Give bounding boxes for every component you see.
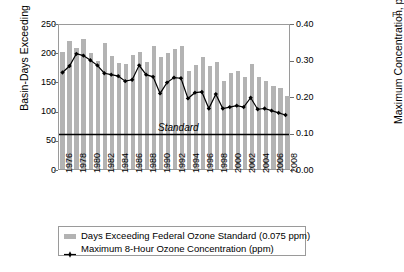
x-tick-label-2004: 2004 xyxy=(262,153,271,173)
x-tick-label-1994: 1994 xyxy=(192,153,201,173)
legend-label-line: Maximum 8-Hour Ozone Concentration (ppm) xyxy=(81,244,274,254)
x-tick-label-2000: 2000 xyxy=(234,153,243,173)
right-edge-cutoff-text: F t a d E xyxy=(392,10,400,20)
x-tick-label-1984: 1984 xyxy=(121,153,130,173)
x-tick-label-1990: 1990 xyxy=(163,153,172,173)
legend-item-line: Maximum 8-Hour Ozone Concentration (ppm) xyxy=(64,243,300,255)
y-right-tickmark xyxy=(290,97,294,98)
x-tick-label-1980: 1980 xyxy=(93,153,102,173)
y-left-tick-label-250: 250 xyxy=(16,20,56,29)
x-tick-label-2008: 2008 xyxy=(290,153,299,173)
x-tick-label-1982: 1982 xyxy=(107,153,116,173)
standard-annotation: Standard xyxy=(158,122,199,133)
y-right-tick-label-0.00: 0.00 xyxy=(296,166,336,175)
y-left-tickmark xyxy=(54,170,58,171)
x-tick-label-2002: 2002 xyxy=(248,153,257,173)
x-tick-label-1976: 1976 xyxy=(65,153,74,173)
y-axis-right-title: Maximum Concentration, ppm xyxy=(392,0,404,134)
y-left-tick-label-50: 50 xyxy=(16,136,56,145)
y-right-tick-label-0.10: 0.10 xyxy=(296,129,336,138)
x-tick-label-1978: 1978 xyxy=(79,153,88,173)
line-marker-icon xyxy=(64,245,76,254)
x-tick-label-1996: 1996 xyxy=(206,153,215,173)
x-tick-label-2006: 2006 xyxy=(276,153,285,173)
y-left-tick-label-0: 0 xyxy=(16,166,56,175)
y-left-tick-label-150: 150 xyxy=(16,78,56,87)
x-tick-label-1992: 1992 xyxy=(178,153,187,173)
legend-item-bars: Days Exceeding Federal Ozone Standard (0… xyxy=(64,230,300,242)
plot-area xyxy=(58,24,290,170)
standard-line-layer xyxy=(59,25,289,169)
y-right-tick-label-0.30: 0.30 xyxy=(296,56,336,65)
y-right-tick-label-0.40: 0.40 xyxy=(296,20,336,29)
bar-swatch-icon xyxy=(64,234,76,239)
y-right-tickmark xyxy=(290,24,294,25)
y-left-tick-label-200: 200 xyxy=(16,49,56,58)
legend-label-bars: Days Exceeding Federal Ozone Standard (0… xyxy=(81,231,310,241)
x-tick-label-1998: 1998 xyxy=(220,153,229,173)
x-tick-label-1988: 1988 xyxy=(149,153,158,173)
x-tick-label-1986: 1986 xyxy=(135,153,144,173)
y-right-tickmark xyxy=(290,134,294,135)
y-right-tick-label-0.20: 0.20 xyxy=(296,93,336,102)
y-right-tickmark xyxy=(290,61,294,62)
y-left-tick-label-100: 100 xyxy=(16,107,56,116)
chart-legend: Days Exceeding Federal Ozone Standard (0… xyxy=(58,226,306,256)
